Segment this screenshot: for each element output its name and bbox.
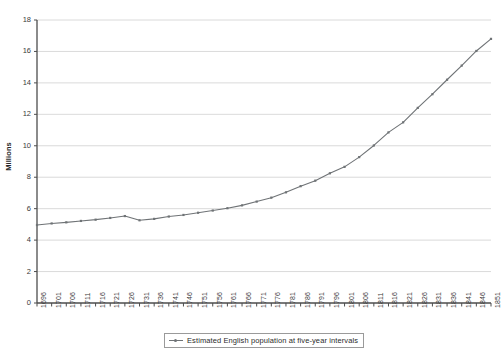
y-tick-label: 16 — [9, 47, 31, 55]
x-tick-label: 1811 — [377, 293, 384, 308]
x-tick-label: 1816 — [391, 292, 398, 308]
x-tick-label: 1806 — [362, 292, 369, 308]
x-tick-label: 1696 — [40, 292, 47, 308]
x-tick-label: 1786 — [304, 292, 311, 308]
y-tick-label: 4 — [9, 236, 31, 244]
y-tick-label: 6 — [9, 205, 31, 213]
x-tick-label: 1791 — [318, 292, 325, 308]
x-tick-label: 1841 — [465, 292, 472, 308]
x-tick-label: 1801 — [348, 292, 355, 308]
x-tick-label: 1796 — [333, 292, 340, 308]
y-tick-label: 2 — [9, 268, 31, 276]
x-tick-label: 1831 — [435, 292, 442, 308]
x-tick-label: 1736 — [157, 292, 164, 308]
x-tick-label: 1701 — [55, 292, 62, 308]
x-tick-label: 1721 — [113, 292, 120, 308]
x-tick-label: 1716 — [99, 292, 106, 308]
x-tick-label: 1706 — [69, 292, 76, 308]
y-tick-label: 12 — [9, 110, 31, 118]
y-tick-label: 10 — [9, 142, 31, 150]
y-tick-label: 18 — [9, 16, 31, 24]
x-tick-label: 1746 — [186, 292, 193, 308]
x-tick-label: 1846 — [479, 292, 486, 308]
chart-legend: Estimated English population at five-yea… — [164, 333, 364, 348]
legend-label: Estimated English population at five-yea… — [187, 336, 358, 345]
y-tick-label: 8 — [9, 173, 31, 181]
x-tick-label: 1731 — [143, 292, 150, 308]
x-tick-label: 1751 — [201, 292, 208, 308]
x-tick-label: 1726 — [128, 292, 135, 308]
x-tick-label: 1756 — [216, 292, 223, 308]
x-tick-label: 1826 — [421, 292, 428, 308]
x-tick-label: 1781 — [289, 292, 296, 308]
x-tick-label: 1741 — [172, 292, 179, 308]
y-tick-label: 14 — [9, 79, 31, 87]
legend-line-swatch-icon — [169, 340, 183, 341]
x-tick-label: 1776 — [274, 292, 281, 308]
x-tick-label: 1711 — [84, 293, 91, 308]
x-tick-label: 1761 — [230, 292, 237, 308]
x-tick-label: 1836 — [450, 292, 457, 308]
x-tick-label: 1771 — [260, 292, 267, 308]
x-tick-label: 1766 — [245, 292, 252, 308]
y-tick-label: 0 — [9, 299, 31, 307]
x-tick-label: 1851 — [494, 292, 501, 308]
x-tick-label: 1821 — [406, 292, 413, 308]
population-line-chart: Millions 024681012141618 169617011706171… — [0, 0, 503, 352]
